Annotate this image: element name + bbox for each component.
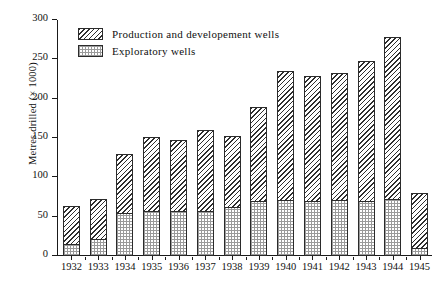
bar-segment-exploratory: [116, 213, 133, 256]
bar-chart-figure: Metres drilled (× 1000) 0501001502002503…: [0, 0, 440, 290]
y-tick: 300: [52, 19, 57, 20]
x-tick: [393, 256, 394, 260]
bar-segment-production: [250, 107, 267, 202]
x-tick: [71, 256, 72, 260]
bar-segment-exploratory: [224, 207, 241, 256]
bar-segment-exploratory: [250, 201, 267, 256]
bar-segment-production: [143, 137, 160, 212]
x-tick-minor: [192, 257, 193, 260]
x-tick-label: 1945: [403, 261, 437, 272]
legend-swatch-exploratory-icon: [78, 45, 103, 57]
bar-1940: [277, 71, 294, 256]
bar-1935: [143, 137, 160, 256]
x-tick: [98, 256, 99, 260]
x-tick-minor: [299, 257, 300, 260]
x-tick-minor: [353, 257, 354, 260]
y-tick-label: 300: [32, 12, 48, 23]
bar-segment-production: [304, 76, 321, 202]
x-tick-minor: [138, 257, 139, 260]
legend-item-exploratory: Exploratory wells: [78, 43, 279, 58]
bar-1941: [304, 76, 321, 256]
x-tick: [339, 256, 340, 260]
bar-segment-production: [63, 206, 80, 245]
y-tick-label: 100: [32, 169, 48, 180]
x-tick: [152, 256, 153, 260]
bar-1943: [358, 61, 375, 256]
y-tick: 100: [52, 176, 57, 177]
x-tick-minor: [112, 257, 113, 260]
chart-legend: Production and developement wells Explor…: [78, 26, 279, 60]
x-tick: [205, 256, 206, 260]
bar-segment-exploratory: [304, 201, 321, 256]
y-tick: 150: [52, 137, 57, 138]
x-tick-minor: [165, 257, 166, 260]
bar-segment-production: [411, 193, 428, 249]
x-tick: [312, 256, 313, 260]
y-tick: 50: [52, 216, 57, 217]
x-tick: [366, 256, 367, 260]
bar-1945: [411, 193, 428, 256]
bar-segment-exploratory: [170, 211, 187, 256]
bar-segment-production: [384, 37, 401, 200]
bar-segment-production: [116, 154, 133, 214]
x-tick-minor: [326, 257, 327, 260]
bar-1938: [224, 136, 241, 256]
legend-swatch-production-icon: [78, 28, 103, 40]
bar-segment-production: [197, 130, 214, 212]
bar-1942: [331, 73, 348, 256]
y-tick-label: 50: [38, 209, 49, 220]
bar-segment-production: [358, 61, 375, 202]
x-tick: [125, 256, 126, 260]
y-tick-label: 200: [32, 91, 48, 102]
x-tick: [232, 256, 233, 260]
bar-segment-exploratory: [277, 200, 294, 256]
bar-1939: [250, 107, 267, 256]
legend-item-production: Production and developement wells: [78, 26, 279, 41]
y-tick: 0: [52, 255, 57, 256]
bar-segment-exploratory: [411, 248, 428, 256]
x-tick: [179, 256, 180, 260]
x-tick-minor: [406, 257, 407, 260]
bar-segment-exploratory: [90, 239, 107, 256]
bar-segment-exploratory: [384, 199, 401, 256]
bar-segment-exploratory: [143, 211, 160, 256]
bar-segment-exploratory: [197, 211, 214, 256]
x-axis-line: [57, 255, 432, 256]
bar-segment-production: [90, 199, 107, 240]
y-tick-label: 150: [32, 130, 48, 141]
x-tick: [286, 256, 287, 260]
bar-segment-production: [277, 71, 294, 201]
y-tick-label: 0: [43, 248, 48, 259]
x-tick: [420, 256, 421, 260]
bar-segment-production: [224, 136, 241, 209]
bar-segment-production: [331, 73, 348, 201]
x-tick-minor: [379, 257, 380, 260]
bar-segment-exploratory: [358, 201, 375, 256]
bar-1934: [116, 154, 133, 256]
x-tick-minor: [272, 257, 273, 260]
bar-1932: [63, 206, 80, 256]
y-axis-line: [57, 20, 58, 256]
legend-label-exploratory: Exploratory wells: [112, 45, 196, 57]
bar-segment-exploratory: [331, 200, 348, 256]
bar-1944: [384, 37, 401, 256]
y-tick: 200: [52, 98, 57, 99]
x-tick-minor: [219, 257, 220, 260]
legend-label-production: Production and developement wells: [112, 28, 279, 40]
bar-1936: [170, 140, 187, 256]
x-tick-minor: [85, 257, 86, 260]
y-tick-label: 250: [32, 51, 48, 62]
bar-1933: [90, 199, 107, 256]
y-tick: 250: [52, 58, 57, 59]
bar-1937: [197, 130, 214, 256]
bar-segment-exploratory: [63, 244, 80, 256]
x-tick-minor: [246, 257, 247, 260]
x-tick: [259, 256, 260, 260]
bar-segment-production: [170, 140, 187, 213]
